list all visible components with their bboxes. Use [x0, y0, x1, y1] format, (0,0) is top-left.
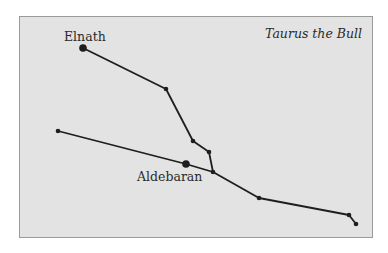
- star-s8: [354, 222, 359, 227]
- label-aldebaran: Aldebaran: [136, 169, 202, 184]
- star-aldebaran: [182, 160, 190, 168]
- constellation-line: [213, 172, 259, 198]
- constellation-diagram: Elnath Aldebaran Taurus the Bull: [0, 0, 388, 253]
- constellation-stars: [56, 44, 359, 226]
- constellation-line: [58, 131, 186, 164]
- constellation-line: [83, 48, 166, 89]
- star-s6: [257, 196, 262, 201]
- star-s5: [56, 129, 61, 134]
- star-s4: [211, 170, 216, 175]
- label-elnath: Elnath: [64, 29, 106, 44]
- star-elnath: [79, 44, 87, 52]
- star-s1: [164, 87, 169, 92]
- star-s7: [347, 213, 352, 218]
- constellation-line: [166, 89, 193, 141]
- constellation-line: [259, 198, 349, 215]
- diagram-title: Taurus the Bull: [265, 26, 362, 41]
- constellation-lines: [58, 48, 356, 224]
- constellation-line: [209, 152, 213, 172]
- constellation-line: [193, 141, 209, 152]
- star-s3: [207, 150, 212, 155]
- star-s2: [191, 139, 196, 144]
